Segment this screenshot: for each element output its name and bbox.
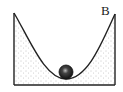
ball [59,65,73,79]
bowl-track-diagram: B [0,0,123,92]
label-b: B [101,3,110,18]
